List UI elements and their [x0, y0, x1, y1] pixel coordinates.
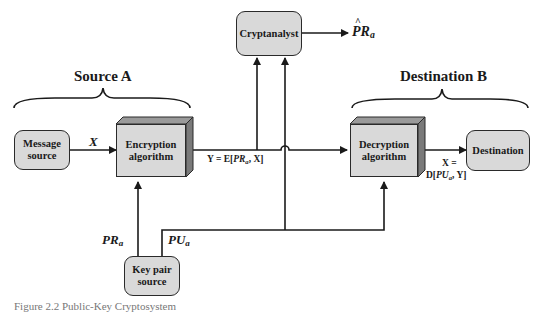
figure-caption: Figure 2.2 Public-Key Cryptosystem [14, 300, 176, 312]
plaintext-equation-line2: D[PUa, Y] [426, 170, 466, 181]
destination-brace [352, 89, 528, 108]
plaintext-x-label: X [89, 134, 98, 150]
private-key-label: PRa [102, 232, 123, 248]
cryptanalyst-label: Cryptanalyst [240, 28, 299, 40]
message-source-node: Message source [14, 130, 70, 170]
decryption-algorithm-node: Decryption algorithm [350, 124, 418, 177]
cryptanalyst-node: Cryptanalyst [236, 11, 302, 56]
destination-node: Destination [466, 130, 530, 171]
source-a-heading: Source A [74, 68, 132, 85]
estimated-private-key-label: PRa [352, 24, 375, 40]
ciphertext-equation: Y = E[PRa, X] [207, 154, 263, 165]
message-source-label: Message source [15, 138, 69, 162]
key-pair-source-node: Key pair source [124, 256, 180, 296]
public-key-label: PUa [168, 232, 190, 248]
plaintext-equation-line1: X = [442, 158, 457, 168]
source-brace [14, 88, 190, 108]
encryption-algorithm-label: Encryption algorithm [117, 139, 185, 163]
encryption-algorithm-node: Encryption algorithm [116, 124, 186, 177]
key-pair-source-label: Key pair source [125, 264, 179, 288]
decryption-algorithm-label: Decryption algorithm [351, 139, 417, 163]
destination-label: Destination [472, 145, 523, 157]
destination-b-heading: Destination B [400, 68, 487, 85]
